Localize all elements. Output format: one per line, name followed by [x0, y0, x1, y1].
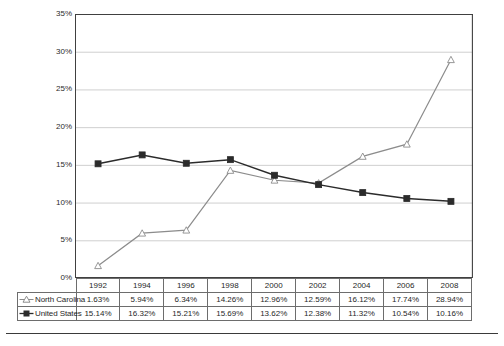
table-cell: 14.26% [208, 293, 252, 307]
table-column-header: 2000 [252, 279, 296, 293]
table-column-header: 2006 [384, 279, 428, 293]
y-axis-tick-label: 5% [60, 236, 72, 244]
table-column-header: 1996 [164, 279, 208, 293]
table-cell: 5.94% [120, 293, 164, 307]
table-cell: 6.34% [164, 293, 208, 307]
series-line [98, 60, 451, 266]
legend-entry: North Carolina [19, 295, 76, 305]
series-united-states [95, 152, 454, 204]
legend-label: United States [35, 309, 82, 319]
table-column-header: 2004 [340, 279, 384, 293]
table-column-header: 1994 [120, 279, 164, 293]
y-axis-tick-label: 25% [56, 85, 72, 93]
table-column-header: 1992 [76, 279, 120, 293]
table-row-header: North Carolina [18, 293, 77, 307]
table-row: United States15.14%16.32%15.21%15.69%13.… [18, 307, 472, 321]
table-row-header: United States [18, 307, 77, 321]
data-point-marker-square [183, 160, 189, 166]
table-cell: 12.96% [252, 293, 296, 307]
table-cell: 15.69% [208, 307, 252, 321]
legend-entry: United States [19, 309, 76, 319]
legend-square-icon [19, 309, 34, 318]
data-point-marker-square [316, 182, 322, 188]
table-cell: 12.38% [296, 307, 340, 321]
bottom-divider [6, 333, 498, 334]
table-cell: 16.32% [120, 307, 164, 321]
table-cell: 10.16% [428, 307, 472, 321]
table-cell: 13.62% [252, 307, 296, 321]
table-cell: 10.54% [384, 307, 428, 321]
data-point-marker-square [272, 172, 278, 178]
data-point-marker-square [360, 190, 366, 196]
data-point-marker-triangle [403, 141, 410, 147]
table-cell: 17.74% [384, 293, 428, 307]
data-point-marker-square [404, 196, 410, 202]
y-axis-tick-label: 15% [56, 161, 72, 169]
y-axis-tick-label: 30% [56, 48, 72, 56]
plot-area [75, 14, 472, 278]
legend-label: North Carolina [35, 295, 85, 305]
data-point-marker-square [227, 157, 233, 163]
data-table-head: 199219941996199820002002200420062008 [18, 279, 472, 293]
data-point-marker-triangle [448, 56, 455, 62]
table-row: North Carolina1.63%5.94%6.34%14.26%12.96… [18, 293, 472, 307]
table-cell: 12.59% [296, 293, 340, 307]
series-layer [95, 56, 455, 268]
table-corner-cell [18, 279, 77, 293]
series-north-carolina [95, 56, 455, 268]
data-point-marker-square [448, 198, 454, 204]
data-table-body: North Carolina1.63%5.94%6.34%14.26%12.96… [18, 293, 472, 321]
y-axis-tick-label: 35% [56, 10, 72, 18]
plot-svg [76, 14, 473, 278]
y-axis-tick-label: 20% [56, 123, 72, 131]
table-column-header: 2002 [296, 279, 340, 293]
data-point-marker-square [95, 161, 101, 167]
data-table: 199219941996199820002002200420062008 Nor… [17, 278, 472, 321]
table-cell: 16.12% [340, 293, 384, 307]
table-column-header: 1998 [208, 279, 252, 293]
data-point-marker-square [139, 152, 145, 158]
legend-triangle-icon [19, 295, 34, 304]
table-header-row: 199219941996199820002002200420062008 [18, 279, 472, 293]
table-cell: 15.21% [164, 307, 208, 321]
data-point-marker-triangle [227, 167, 234, 173]
y-axis-tick-label: 10% [56, 199, 72, 207]
table-column-header: 2008 [428, 279, 472, 293]
table-cell: 28.94% [428, 293, 472, 307]
chart-figure: 0%5%10%15%20%25%30%35% 19921994199619982… [0, 0, 504, 346]
table-cell: 15.14% [76, 307, 120, 321]
table-cell: 11.32% [340, 307, 384, 321]
